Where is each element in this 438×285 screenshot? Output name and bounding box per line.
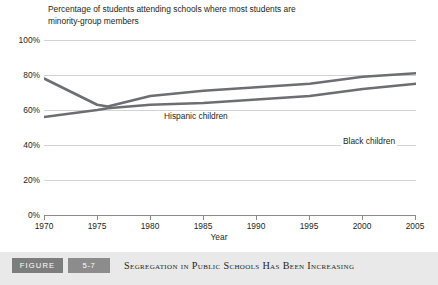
x-axis-title: Year xyxy=(0,232,438,242)
y-axis-label-60: 60% xyxy=(2,105,40,115)
figure-caption-title: Segregation in Public Schools Has Been I… xyxy=(124,258,354,273)
x-tick-1990 xyxy=(256,215,257,220)
x-tick-1980 xyxy=(150,215,151,220)
chart-title-line-1: Percentage of students attending schools… xyxy=(48,4,388,16)
x-axis-label-1975: 1975 xyxy=(77,221,117,231)
y-axis-label-40: 40% xyxy=(2,140,40,150)
series-lines xyxy=(44,40,416,215)
figure-badges: FIGURE 5-7 xyxy=(12,258,110,273)
chart-title: Percentage of students attending schools… xyxy=(48,4,388,27)
figure-caption-bar: FIGURE 5-7 Segregation in Public Schools… xyxy=(0,252,438,285)
y-axis-label-80: 80% xyxy=(2,70,40,80)
y-axis-label-0: 0% xyxy=(2,210,40,220)
y-axis-label-20: 20% xyxy=(2,175,40,185)
x-axis-label-2005: 2005 xyxy=(395,221,435,231)
x-axis-label-1970: 1970 xyxy=(24,221,64,231)
x-tick-1975 xyxy=(97,215,98,220)
series-label-black: Black children xyxy=(341,136,397,146)
y-axis-labels: 100% 80% 60% 40% 20% 0% xyxy=(0,40,40,215)
chart-title-line-2: minority-group members xyxy=(48,16,388,28)
y-axis-label-100: 100% xyxy=(2,35,40,45)
figure-word-badge: FIGURE xyxy=(12,258,63,273)
x-axis-label-1990: 1990 xyxy=(236,221,276,231)
series-label-hispanic: Hispanic children xyxy=(162,111,230,121)
plot-area: Hispanic children Black children xyxy=(44,40,416,215)
x-axis-label-1980: 1980 xyxy=(130,221,170,231)
x-tick-2005 xyxy=(415,215,416,220)
figure-container: Percentage of students attending schools… xyxy=(0,0,438,285)
x-tick-2000 xyxy=(362,215,363,220)
figure-number-badge: 5-7 xyxy=(68,258,110,273)
x-axis-label-2000: 2000 xyxy=(342,221,382,231)
x-tick-1985 xyxy=(203,215,204,220)
x-tick-1970 xyxy=(44,215,45,220)
x-axis-label-1995: 1995 xyxy=(289,221,329,231)
x-tick-1995 xyxy=(309,215,310,220)
x-axis-label-1985: 1985 xyxy=(183,221,223,231)
